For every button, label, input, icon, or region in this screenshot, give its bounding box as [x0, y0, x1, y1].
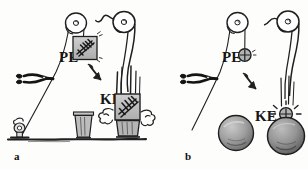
panel-caption-a: a — [14, 150, 20, 162]
ground-line-a — [8, 139, 146, 140]
weight-fallen-a — [115, 94, 140, 120]
sphere-intact-b — [219, 116, 254, 151]
pulley-left-a — [66, 13, 87, 34]
canvas-background — [0, 0, 308, 169]
crushed-bucket-a — [116, 121, 140, 138]
figure-canvas: PE — [0, 0, 308, 169]
sphere-struck-b — [268, 118, 305, 155]
physics-diagram: PE — [0, 0, 308, 169]
pulley-left-b — [227, 13, 248, 34]
panel-caption-b: b — [185, 150, 191, 162]
